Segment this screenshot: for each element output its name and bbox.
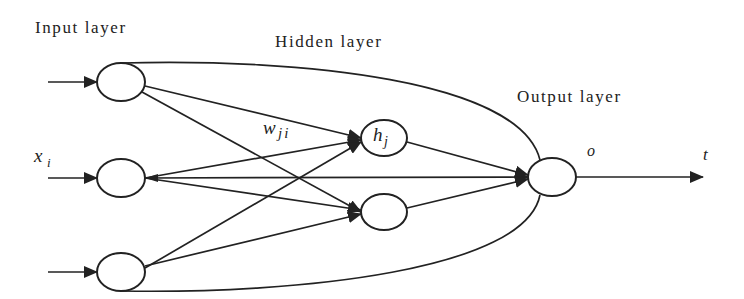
neural-network-diagram: Input layer Hidden layer Output layer x …: [0, 0, 744, 299]
weight-var-sub: ji: [276, 125, 290, 141]
input-node-3: [97, 253, 145, 291]
hidden-layer-label: Hidden layer: [275, 32, 382, 51]
input-var-x: x: [33, 145, 43, 166]
in2-arrowhead-icon: [145, 174, 158, 182]
edge-in2-out: [145, 177, 528, 178]
output-var-o: o: [587, 142, 595, 159]
input-var-sub: i: [47, 155, 51, 170]
edge-in3-h2: [145, 214, 361, 266]
hidden-var-h: h: [373, 124, 383, 145]
hidden-node-2: [361, 194, 407, 230]
input-node-1: [97, 63, 145, 101]
edge-h2-out: [407, 179, 528, 208]
output-layer-label: Output layer: [517, 87, 622, 106]
edge-in2-h1: [145, 140, 361, 178]
skip-edge-in3-out: [121, 195, 540, 291]
edge-h1-out: [407, 142, 528, 175]
target-var-t: t: [703, 145, 709, 164]
output-node: [528, 158, 576, 196]
input-layer-label: Input layer: [35, 18, 127, 37]
weight-var-w: w: [263, 117, 276, 138]
input-node-2: [97, 159, 145, 197]
